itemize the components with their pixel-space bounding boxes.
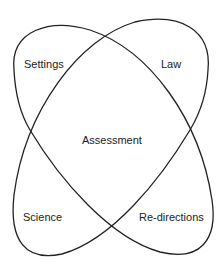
label-law: Law [161,58,181,70]
label-re-directions: Re-directions [139,211,204,223]
label-assessment: Assessment [82,134,142,146]
label-science: Science [23,211,62,223]
label-settings: Settings [24,58,64,70]
